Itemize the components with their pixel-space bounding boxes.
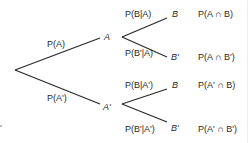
label-p-b-given-a: P(B|A) [125,9,151,19]
right-edge-divider [247,0,248,143]
label-p-a: P(A) [47,39,65,49]
node-b-prime-after-a: B' [171,52,179,62]
label-p-b-given-a-prime: P(B|A') [125,80,153,90]
branch-a-prime-b-prime [122,104,167,122]
node-a-prime: A' [103,102,111,112]
tree-lines [0,0,250,143]
node-b-after-a-prime: B [172,80,178,90]
outcome-a-and-b: P(A ∩ B) [198,9,233,19]
label-p-b-prime-given-a: P(B'|A) [125,48,153,58]
stray-dot [0,125,2,127]
outcome-a-prime-and-b: P(A' ∩ B) [198,80,235,90]
branch-a-prime-b [122,89,167,104]
branch-a-b [122,18,167,37]
node-b-after-a: B [172,9,178,19]
label-p-b-prime-given-a-prime: P(B'|A') [125,124,155,134]
node-a: A [104,32,110,42]
label-p-a-prime: P(A') [47,93,67,103]
outcome-a-and-b-prime: P(A ∩ B') [198,52,235,62]
node-b-prime-after-a-prime: B' [171,123,179,133]
outcome-a-prime-and-b-prime: P(A' ∩ B') [198,124,237,134]
